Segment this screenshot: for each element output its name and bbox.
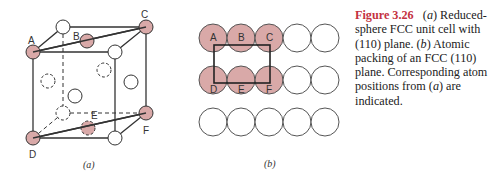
label-f: F <box>143 125 149 136</box>
plane-110-top-diagonal-overlay <box>33 27 146 52</box>
atom <box>255 108 283 136</box>
atom <box>283 108 311 136</box>
label-a: A <box>210 32 217 43</box>
atom-corner <box>108 45 122 59</box>
atom <box>199 108 227 136</box>
atom-corner <box>108 131 122 145</box>
panel-a-unit-cell <box>26 20 153 145</box>
atom-e <box>81 121 95 135</box>
atom-left-face-hidden <box>41 74 55 88</box>
label-e: E <box>238 84 245 95</box>
label-d: D <box>29 149 36 160</box>
atom-front-face <box>68 89 82 103</box>
label-a: A <box>28 35 35 46</box>
figure-number: Figure 3.26 <box>355 8 414 22</box>
label-f: F <box>266 84 272 95</box>
caption-text: (a) Reduced-sphere FCC unit cell with (1… <box>355 8 487 108</box>
label-c: C <box>266 32 273 43</box>
atom-corner-hidden <box>56 106 70 120</box>
atom-right-face <box>124 75 138 89</box>
sublabel-a: (a) <box>83 159 95 171</box>
atom <box>311 24 339 52</box>
atom <box>311 108 339 136</box>
figure-caption: Figure 3.26 (a) Reduced-sphere FCC unit … <box>355 8 489 108</box>
label-b: B <box>238 32 245 43</box>
label-b: B <box>73 31 80 42</box>
atom <box>227 108 255 136</box>
label-e: E <box>91 110 98 121</box>
atom <box>311 66 339 94</box>
panel-a-labels: A B C D E F (a) <box>28 9 149 171</box>
sublabel-b: (b) <box>264 158 276 170</box>
atom-back-face-hidden <box>97 63 111 77</box>
atom <box>283 66 311 94</box>
panel-b-labels: A B C D E F (b) <box>210 32 276 170</box>
atom-corner <box>56 20 70 34</box>
label-c: C <box>141 9 148 20</box>
label-d: D <box>210 84 217 95</box>
atom <box>283 24 311 52</box>
